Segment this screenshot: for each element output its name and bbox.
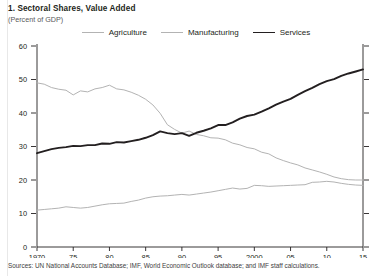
y-tick-label: 30	[19, 142, 27, 151]
legend-item-label: Agriculture	[109, 28, 147, 37]
series-line-manufacturing	[37, 181, 363, 210]
page-title: 1. Sectoral Shares, Value Added	[8, 4, 135, 13]
x-tick-label: 95	[214, 253, 222, 258]
legend-item-agriculture[interactable]: Agriculture	[82, 28, 147, 37]
series-line-services	[37, 69, 363, 153]
x-tick-label: 90	[178, 253, 186, 258]
y-tick-label: 20	[19, 176, 27, 185]
legend-line-icon	[253, 32, 275, 33]
x-tick-label: 10	[323, 253, 331, 258]
chart-legend: AgricultureManufacturingServices	[0, 28, 392, 37]
x-tick-label: 75	[69, 253, 77, 258]
y-tick-label: 10	[19, 209, 27, 218]
x-tick-label: 05	[286, 253, 294, 258]
y-tick-label: 0	[23, 243, 27, 252]
y-tick-label: 40	[19, 109, 27, 118]
x-tick-label: 15	[359, 253, 367, 258]
plot-area: 0102030405060197075808590952000051015	[0, 38, 392, 258]
legend-line-icon	[82, 32, 104, 33]
x-tick-label: 1970	[29, 253, 45, 258]
source-note: Sources: UN National Accounts Database; …	[8, 262, 320, 269]
legend-line-icon	[161, 32, 183, 33]
legend-item-label: Services	[280, 28, 311, 37]
y-tick-label: 50	[19, 75, 27, 84]
legend-item-manufacturing[interactable]: Manufacturing	[161, 28, 239, 37]
y-tick-label: 60	[19, 42, 27, 51]
figure-panel: 1. Sectoral Shares, Value Added (Percent…	[0, 0, 392, 276]
x-tick-label: 80	[105, 253, 113, 258]
legend-item-label: Manufacturing	[188, 28, 239, 37]
x-tick-label: 85	[142, 253, 150, 258]
legend-item-services[interactable]: Services	[253, 28, 311, 37]
x-tick-label: 2000	[246, 253, 262, 258]
line-chart-svg: 0102030405060197075808590952000051015	[0, 38, 392, 258]
figure-subtitle: (Percent of GDP)	[8, 15, 63, 24]
